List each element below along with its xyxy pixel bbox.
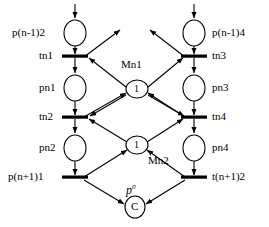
place-pn4[interactable]: [183, 135, 205, 161]
arc-cross-Mn1-tn4: [148, 95, 184, 116]
token-Mn2: 1: [134, 140, 139, 150]
place-pn2[interactable]: [64, 135, 86, 161]
token-p0: C: [131, 201, 138, 212]
transition-t-n-plus-1-1[interactable]: [62, 176, 88, 179]
transition-tn1[interactable]: [62, 55, 88, 58]
label-place-pn1: pn1: [39, 82, 56, 93]
arc-tn2-to-Mn1: [84, 93, 126, 117]
place-pn3[interactable]: [183, 75, 205, 101]
label-place-p-n-1-4: p(n-1)4: [212, 27, 245, 38]
arc-tn1plus1-to-Mn2: [84, 150, 127, 177]
arc-tn3-out-upleft: [150, 30, 185, 57]
label-place-pn3: pn3: [212, 82, 229, 93]
transition-tn4[interactable]: [181, 116, 207, 119]
petri-net-diagram: p(n-1)2 tn1 pn1 tn2 pn2 p(n+1)1 p(n-1)4 …: [0, 0, 269, 227]
arc-tn1plus1-to-p0: [84, 180, 124, 204]
label-place-pn4: pn4: [212, 142, 229, 153]
arc-Mn2-to-tn2: [89, 119, 127, 142]
transition-t-n-plus-1-2[interactable]: [181, 176, 207, 179]
label-p0-superscript: 0: [132, 183, 136, 191]
place-p-n-1-4[interactable]: [183, 20, 205, 46]
label-place-p0: p0: [126, 184, 136, 196]
label-place-Mn1: Mn1: [121, 59, 142, 70]
label-place-Mn2: Mn2: [148, 155, 169, 166]
label-place-pn2: pn2: [39, 142, 56, 153]
label-transition-tn3: tn3: [212, 50, 226, 61]
arc-tn1plus2-to-p0: [146, 180, 185, 204]
arc-Mn2-to-tn4: [147, 119, 183, 142]
place-pn1[interactable]: [64, 75, 86, 101]
token-Mn1: 1: [134, 84, 139, 94]
transition-tn2[interactable]: [62, 116, 88, 119]
place-p-n-1-2[interactable]: [64, 20, 86, 46]
label-transition-p-n-plus-1-1: p(n+1)1: [8, 171, 44, 182]
label-place-p-n-1-2: p(n-1)2: [12, 27, 45, 38]
arc-cross-Mn1-tn2: [90, 95, 126, 116]
arc-tn1-out-upright: [84, 30, 120, 57]
label-transition-t-n-plus-1-2: t(n+1)2: [212, 171, 245, 182]
transition-tn3[interactable]: [181, 55, 207, 58]
label-transition-tn2: tn2: [39, 111, 53, 122]
label-transition-tn1: tn1: [39, 50, 53, 61]
label-transition-tn4: tn4: [212, 111, 226, 122]
arc-Mn1-to-tn3: [148, 58, 183, 87]
